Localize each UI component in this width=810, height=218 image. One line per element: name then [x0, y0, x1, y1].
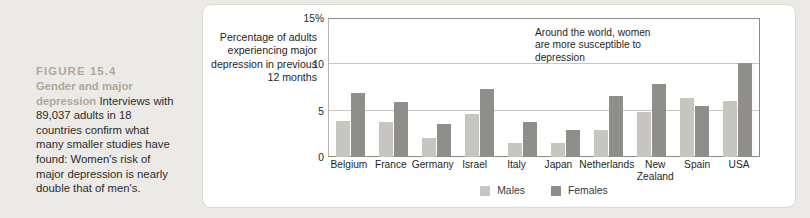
- bar-group: [716, 19, 759, 157]
- chart-legend: MalesFemales: [328, 185, 760, 196]
- bar-females: [566, 130, 580, 157]
- bar-males: [465, 114, 479, 157]
- x-tick-label: USA: [718, 159, 760, 182]
- x-tick-label: France: [370, 159, 412, 182]
- figure-caption-text: Gender and major depression Interviews w…: [36, 79, 178, 196]
- bar-group: [544, 19, 587, 157]
- bar-females: [351, 93, 365, 157]
- bar-females: [394, 102, 408, 157]
- figure-number: FIGURE 15.4: [36, 64, 178, 79]
- x-tick-label: Germany: [412, 159, 454, 182]
- plot-area: 051015% Around the world, women are more…: [328, 18, 760, 157]
- bar-males: [594, 130, 608, 157]
- legend-swatch: [551, 186, 561, 196]
- x-axis-labels: BelgiumFranceGermanyIsraelItalyJapanNeth…: [328, 159, 760, 182]
- legend-label: Females: [568, 185, 608, 196]
- x-tick-label: Israel: [454, 159, 496, 182]
- bar-females: [609, 96, 623, 157]
- bar-females: [437, 124, 451, 157]
- bar-group: [673, 19, 716, 157]
- y-tick-label: 10: [313, 59, 324, 70]
- bar-females: [695, 106, 709, 157]
- bar-group: [329, 19, 372, 157]
- y-tick-label: 5: [318, 105, 324, 116]
- bar-females: [480, 89, 494, 157]
- bar-females: [652, 84, 666, 157]
- bar-males: [336, 121, 350, 157]
- bar-females: [738, 63, 752, 157]
- bar-males: [637, 112, 651, 157]
- x-tick-label: Netherlands: [579, 159, 634, 182]
- bar-group: [630, 19, 673, 157]
- figure-body-text: Interviews with 89,037 adults in 18 coun…: [36, 95, 174, 195]
- y-axis-label: Percentage of adults experiencing major …: [209, 31, 317, 85]
- x-tick-label: Spain: [676, 159, 718, 182]
- bar-males: [379, 122, 393, 157]
- bar-group: [372, 19, 415, 157]
- legend-swatch: [480, 186, 490, 196]
- bar-group: [415, 19, 458, 157]
- figure-caption: FIGURE 15.4 Gender and major depression …: [0, 64, 186, 196]
- bar-groups: [329, 19, 759, 157]
- legend-item-females: Females: [551, 185, 608, 196]
- bar-group: [501, 19, 544, 157]
- bar-group: [587, 19, 630, 157]
- bar-males: [551, 143, 565, 157]
- bar-males: [422, 138, 436, 157]
- x-tick-label: Belgium: [328, 159, 370, 182]
- bar-males: [680, 98, 694, 157]
- x-tick-label: New Zealand: [634, 159, 676, 182]
- x-tick-label: Italy: [496, 159, 538, 182]
- legend-label: Males: [497, 185, 525, 196]
- x-tick-label: Japan: [537, 159, 579, 182]
- bar-females: [523, 122, 537, 157]
- bar-group: [458, 19, 501, 157]
- bar-males: [508, 143, 522, 157]
- bar-males: [723, 101, 737, 157]
- chart-panel: Percentage of adults experiencing major …: [202, 4, 796, 208]
- y-tick-label: 0: [318, 152, 324, 163]
- y-tick-label: 15%: [304, 13, 324, 24]
- legend-item-males: Males: [480, 185, 525, 196]
